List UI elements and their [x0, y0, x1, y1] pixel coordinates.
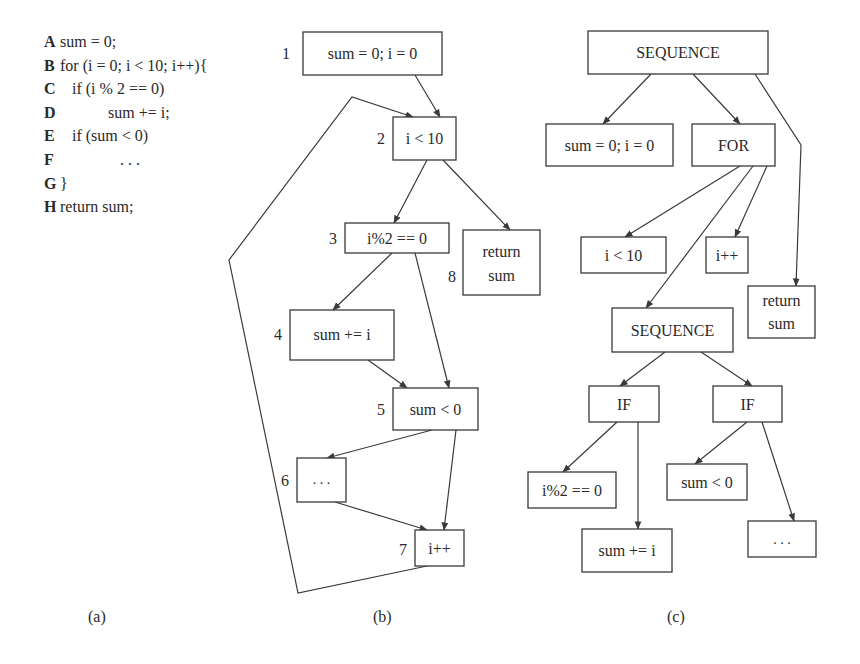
ast-if-1-cond-label: i%2 == 0	[542, 482, 602, 499]
cfg-node-3-text: i%2 == 0	[367, 230, 427, 247]
cfg-edge-2-8	[443, 160, 510, 230]
ast-edge-if1-cond	[563, 422, 617, 472]
cfg-node-2-id: 2	[377, 130, 385, 147]
ast-if-2-cond-label: sum < 0	[681, 474, 733, 491]
cfg-edge-4-5	[368, 360, 407, 388]
ast-edge-seq-if1	[620, 352, 665, 386]
diagram-canvas: 1 sum = 0; i = 0 2 i < 10 3 i%2 == 0 8 r…	[0, 0, 860, 664]
cfg-node-8-text-line1: return	[482, 243, 520, 260]
ast-return-label-line1: return	[762, 292, 800, 309]
cfg-node-6-text: . . .	[313, 472, 331, 487]
ast-edge-seq-return	[755, 74, 801, 286]
ast-for-cond-label: i < 10	[605, 247, 642, 264]
ast-return-label-line2: sum	[768, 315, 795, 332]
cfg-node-1-id: 1	[282, 45, 290, 62]
cfg-node-4-id: 4	[274, 326, 282, 343]
ast-edge-for-incr	[735, 166, 767, 237]
ast-edge-for-cond	[625, 166, 740, 237]
cfg-node-1-text: sum = 0; i = 0	[328, 45, 418, 62]
cfg-node-4-text: sum += i	[313, 326, 371, 343]
cfg-node-7-text: i++	[428, 540, 451, 557]
ast-for-label: FOR	[718, 137, 749, 154]
ast-if-1-label: IF	[617, 396, 631, 413]
cfg-node-8	[463, 230, 540, 295]
ast-for-incr-label: i++	[716, 247, 739, 264]
cfg-edge-5-6	[327, 430, 432, 458]
ast-edge-seq-if2	[701, 352, 752, 386]
cfg-node-8-text-line2: sum	[488, 267, 515, 284]
cfg-node-3-id: 3	[329, 230, 337, 247]
cfg-node-2-text: i < 10	[406, 130, 443, 147]
caption-b: (b)	[373, 608, 392, 626]
cfg-node-5-text: sum < 0	[410, 401, 462, 418]
cfg-edge-6-7	[335, 502, 427, 530]
ast-edge-if2-cond	[695, 422, 747, 464]
caption-a: (a)	[88, 608, 106, 626]
cfg-node-7-id: 7	[399, 541, 407, 558]
ast-if-2-label: IF	[740, 396, 754, 413]
cfg-edge-1-2	[415, 75, 440, 117]
cfg-node-8-id: 8	[448, 268, 456, 285]
cfg-node-5-id: 5	[377, 401, 385, 418]
ast-edge-seq-init	[603, 74, 651, 124]
cfg-node-6-id: 6	[281, 472, 289, 489]
ast-edge-seq-for	[693, 74, 740, 124]
cfg-edge-5-7	[444, 430, 456, 530]
caption-c: (c)	[667, 608, 685, 626]
abstract-syntax-tree: SEQUENCE sum = 0; i = 0 FOR i < 10 i++ r…	[528, 31, 816, 572]
ast-init-label: sum = 0; i = 0	[565, 137, 655, 154]
cfg-edge-3-5	[415, 253, 449, 388]
ast-if-2-body-label: . . .	[773, 532, 791, 547]
ast-root-sequence-label: SEQUENCE	[636, 44, 720, 61]
cfg-edge-2-3	[394, 160, 427, 223]
ast-edge-if2-body	[762, 422, 794, 521]
ast-if-1-body-label: sum += i	[598, 542, 656, 559]
ast-body-sequence-label: SEQUENCE	[631, 322, 715, 339]
control-flow-graph: 1 sum = 0; i = 0 2 i < 10 3 i%2 == 0 8 r…	[229, 32, 540, 593]
cfg-edge-3-4	[333, 253, 392, 310]
